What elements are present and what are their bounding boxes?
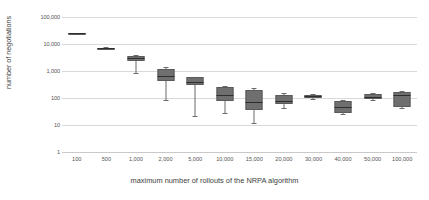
median-line [305,96,322,97]
lower-whisker [254,110,255,123]
x-axis-tick-label: 50,000 [364,156,381,162]
box-plot-item [92,17,122,152]
lower-whisker-cap [133,73,138,74]
lower-whisker [195,85,196,116]
median-line [157,76,174,77]
lower-whisker-cap [370,100,375,101]
lower-whisker-cap [163,100,168,101]
y-axis-tick-label: 1 [2,149,60,155]
lower-whisker [165,81,166,100]
box-iqr [394,92,411,108]
median-line [98,48,115,49]
x-axis-tick-label: 100,000 [392,156,412,162]
y-axis-tick-label: 10 [2,122,60,128]
x-axis-tick-label: 40,000 [334,156,351,162]
x-axis-tick-label: 5,000 [188,156,202,162]
median-line [127,58,144,59]
box-plot-item [299,17,329,152]
box-plot-chart: 100,00010,0001,000100101 number of negot… [0,0,429,200]
median-line [216,95,233,96]
box-plot-item [121,17,151,152]
lower-whisker [224,101,225,113]
box-plot-item [328,17,358,152]
x-axis-tick-label: 10,000 [216,156,233,162]
x-axis-tick-label: 100 [72,156,81,162]
median-line [68,33,85,34]
x-axis-tick-label: 20,000 [275,156,292,162]
box-iqr [216,87,233,102]
plot-area [62,17,417,152]
lower-whisker-cap [193,116,198,117]
upper-whisker-cap [163,67,168,68]
x-axis-tick-label: 500 [102,156,111,162]
x-axis-tick-label: 1,000 [129,156,143,162]
median-line [394,95,411,96]
lower-whisker [135,61,136,74]
lower-whisker-cap [311,99,316,100]
x-axis-title: maximum number of rollouts of the NRPA a… [0,176,429,185]
box-iqr [187,77,204,85]
median-line [187,82,204,83]
lower-whisker-cap [400,108,405,109]
lower-whisker-cap [341,114,346,115]
lower-whisker-cap [222,113,227,114]
box-plot-item [62,17,92,152]
median-line [275,101,292,102]
x-axis-tick-label: 2,000 [159,156,173,162]
box-plot-item [240,17,270,152]
median-line [246,102,263,103]
median-line [335,107,352,108]
box-plot-item [151,17,181,152]
box-plot-item [358,17,388,152]
box-plot-item [210,17,240,152]
lower-whisker-cap [252,123,257,124]
box-iqr [246,90,263,110]
box-plot-item [269,17,299,152]
median-line [364,97,381,98]
box-plot-item [180,17,210,152]
box-plot-item [387,17,417,152]
lower-whisker-cap [281,108,286,109]
x-axis-tick-label: 30,000 [305,156,322,162]
y-axis-title: number of negotiations [4,0,13,113]
x-axis-tick-label: 15,000 [246,156,263,162]
x-axis-line [62,152,417,153]
